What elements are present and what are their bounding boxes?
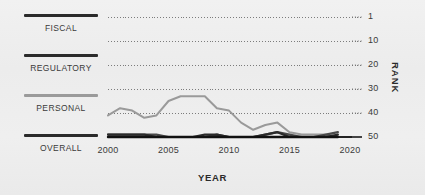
plot-area: 11020304050 20002005201020152020 YEAR RA… <box>0 0 425 195</box>
chart-container: FISCAL REGULATORY PERSONAL OVERALL 11020… <box>0 0 425 195</box>
y-tick-label-10: 10 <box>368 35 379 45</box>
x-tick-label-2000: 2000 <box>97 145 118 155</box>
y-tick-label-50: 50 <box>368 131 379 141</box>
x-tick-label-2020: 2020 <box>339 145 360 155</box>
x-tick-label-2010: 2010 <box>218 145 239 155</box>
y-tick-label-20: 20 <box>368 59 379 69</box>
y-tick-label-30: 30 <box>368 83 379 93</box>
y-tick-label-1: 1 <box>368 11 373 21</box>
series-line-personal <box>108 96 338 137</box>
x-tick-label-2005: 2005 <box>158 145 179 155</box>
y-axis-title: RANK <box>390 62 401 93</box>
chart-svg <box>0 0 425 195</box>
x-axis-title: YEAR <box>0 172 425 183</box>
y-tick-label-40: 40 <box>368 107 379 117</box>
x-tick-label-2015: 2015 <box>279 145 300 155</box>
